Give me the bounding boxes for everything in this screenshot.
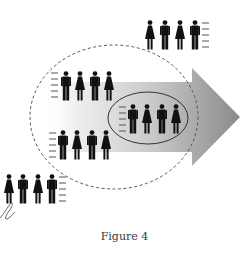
diagram-figure xyxy=(0,0,249,254)
figure-caption: Figure 4 xyxy=(0,230,249,243)
arrow-shape xyxy=(45,68,240,166)
people-group-bottom-left xyxy=(4,174,66,203)
speed-lines xyxy=(202,23,209,47)
speed-lines xyxy=(59,177,66,201)
scribble-mark xyxy=(0,203,15,220)
people-group-top-right xyxy=(145,20,209,49)
